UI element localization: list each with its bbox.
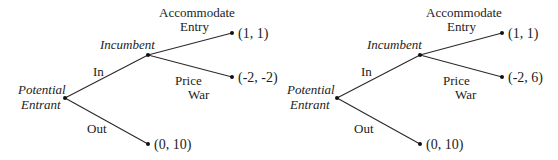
action-label-price-war-line1: Price xyxy=(175,73,202,88)
action-label-out: Out xyxy=(354,121,374,136)
action-label-out: Out xyxy=(87,121,107,136)
decision-node-entrant xyxy=(335,96,339,100)
payoff-out: (0, 10) xyxy=(154,137,192,153)
player-label-entrant-line2: Entrant xyxy=(289,97,330,112)
payoff-accommodate: (1, 1) xyxy=(508,26,539,42)
player-label-entrant-line1: Potential xyxy=(286,82,335,97)
payoff-out: (0, 10) xyxy=(426,137,464,153)
edge-accommodate xyxy=(148,33,232,55)
action-label-in: In xyxy=(93,64,104,79)
player-label-incumbent: Incumbent xyxy=(99,37,155,52)
action-label-accommodate-line1: Accommodate xyxy=(426,5,502,20)
edge-in xyxy=(337,55,420,98)
action-label-accommodate-line2: Entry xyxy=(447,19,476,34)
action-label-price-war-line2: War xyxy=(188,87,210,102)
terminal-node-price-war xyxy=(500,75,504,79)
payoff-price-war: (-2, 6) xyxy=(508,70,543,86)
decision-node-incumbent xyxy=(418,53,422,57)
edge-in xyxy=(65,55,148,98)
terminal-node-accommodate xyxy=(230,31,234,35)
edge-out xyxy=(337,98,420,144)
action-label-accommodate-line1: Accommodate xyxy=(159,5,235,20)
payoff-accommodate: (1, 1) xyxy=(238,26,269,42)
action-label-in: In xyxy=(361,64,372,79)
action-label-accommodate-line2: Entry xyxy=(180,19,209,34)
player-label-incumbent: Incumbent xyxy=(366,37,422,52)
terminal-node-accommodate xyxy=(500,31,504,35)
action-label-price-war-line2: War xyxy=(455,87,477,102)
player-label-entrant-line1: Potential xyxy=(17,82,66,97)
game-trees-figure: Potential Entrant Incumbent In Out Accom… xyxy=(0,0,558,160)
decision-node-incumbent xyxy=(146,53,150,57)
payoff-price-war: (-2, -2) xyxy=(238,70,278,86)
player-label-entrant-line2: Entrant xyxy=(20,97,61,112)
game-tree-right: Potential Entrant Incumbent In Out Accom… xyxy=(286,5,543,153)
terminal-node-out xyxy=(418,142,422,146)
edge-accommodate xyxy=(420,33,502,55)
terminal-node-out xyxy=(146,142,150,146)
edge-out xyxy=(65,98,148,144)
terminal-node-price-war xyxy=(230,75,234,79)
action-label-price-war-line1: Price xyxy=(443,73,470,88)
game-tree-left: Potential Entrant Incumbent In Out Accom… xyxy=(17,5,278,153)
